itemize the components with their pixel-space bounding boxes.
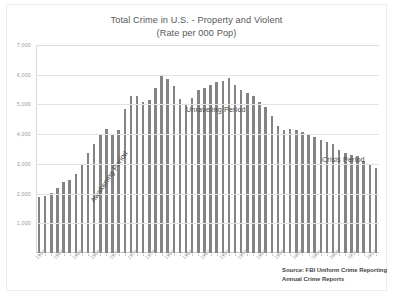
bar — [375, 168, 377, 253]
bar — [38, 197, 40, 253]
bar — [271, 116, 273, 253]
y-axis-tick-label: 6,000 — [17, 72, 31, 78]
bar — [313, 137, 315, 253]
x-axis-tick — [192, 254, 193, 256]
bar — [350, 155, 352, 253]
y-axis-labels: 7,0006,0005,0004,0003,0002,0001,000 — [0, 45, 34, 253]
bar — [81, 164, 83, 253]
gridline — [36, 194, 379, 195]
bar — [68, 180, 70, 253]
bar — [258, 102, 260, 253]
bar — [117, 130, 119, 253]
bar-series — [36, 45, 379, 253]
plot-area: Awakening Period Unraveling Period Crisi… — [36, 45, 379, 253]
bar — [130, 96, 132, 253]
bar — [154, 88, 156, 253]
x-axis-tick — [229, 254, 230, 256]
x-axis-tick — [339, 254, 340, 256]
y-axis-tick-label: 7,000 — [17, 42, 31, 48]
y-axis-tick-label: 4,000 — [17, 131, 31, 137]
bar — [44, 196, 46, 253]
y-axis-tick-label: 1,000 — [17, 220, 31, 226]
chart-title-line2: (Rate per 000 Pop) — [0, 27, 393, 40]
x-axis-tick — [321, 254, 322, 256]
x-axis-tick — [155, 254, 156, 256]
x-axis-tick — [211, 254, 212, 256]
bar — [185, 104, 187, 253]
x-axis-tick — [284, 254, 285, 256]
chart-page: Total Crime in U.S. - Property and Viole… — [0, 0, 393, 299]
bar — [75, 174, 77, 253]
x-axis-tick — [376, 254, 377, 256]
gridline — [36, 104, 379, 105]
bar — [283, 130, 285, 253]
x-axis-tick — [64, 254, 65, 256]
y-axis-tick-label: 2,000 — [17, 191, 31, 197]
gridline — [36, 134, 379, 135]
x-axis-labels: 1960196319661969197219751978198119841987… — [36, 254, 379, 284]
bar — [56, 188, 58, 253]
bar — [148, 100, 150, 253]
x-axis-tick — [174, 254, 175, 256]
bar — [87, 153, 89, 253]
bar — [344, 153, 346, 253]
bar — [142, 102, 144, 253]
bar — [369, 165, 371, 253]
bar — [105, 129, 107, 253]
chart-title-line1: Total Crime in U.S. - Property and Viole… — [110, 15, 282, 25]
x-axis-tick — [82, 254, 83, 256]
x-axis-tick — [137, 254, 138, 256]
gridline — [36, 164, 379, 165]
bar — [264, 107, 266, 253]
gridline — [36, 45, 379, 46]
bar — [338, 150, 340, 253]
bar — [124, 109, 126, 253]
x-axis-tick — [358, 254, 359, 256]
gridline — [36, 223, 379, 224]
x-axis-tick — [302, 254, 303, 256]
bar — [289, 129, 291, 253]
bar — [240, 90, 242, 253]
bar — [277, 126, 279, 253]
bar — [197, 90, 199, 253]
bar — [356, 156, 358, 253]
bar — [173, 86, 175, 253]
gridline — [36, 75, 379, 76]
bar — [136, 96, 138, 253]
bar — [191, 98, 193, 253]
bar — [362, 161, 364, 253]
annotation-unraveling-period: Unraveling Period — [186, 105, 246, 114]
bar — [252, 96, 254, 253]
x-axis-tick — [100, 254, 101, 256]
bar — [295, 130, 297, 253]
chart-title: Total Crime in U.S. - Property and Viole… — [0, 14, 393, 39]
bar — [179, 99, 181, 253]
x-axis-tick — [266, 254, 267, 256]
x-axis-tick — [247, 254, 248, 256]
x-axis-tick — [119, 254, 120, 256]
annotation-crisis-period: Crisis Period — [322, 155, 365, 164]
y-axis-tick-label: 5,000 — [17, 101, 31, 107]
x-axis-tick — [45, 254, 46, 256]
bar — [246, 93, 248, 253]
y-axis-tick-label: 3,000 — [17, 161, 31, 167]
